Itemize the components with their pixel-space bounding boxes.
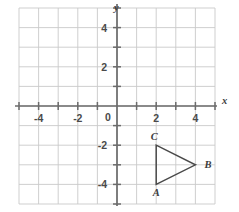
- coordinate-plane-svg: -4-22442-2-40 ABC x y: [0, 0, 239, 212]
- y-tick-label: -2: [98, 139, 107, 151]
- y-tick-label: -4: [98, 178, 107, 190]
- vertex-label-a: A: [152, 187, 160, 198]
- coordinate-plane-figure: -4-22442-2-40 ABC x y: [0, 0, 239, 212]
- y-axis-label: y: [112, 2, 119, 13]
- y-tick-label: 2: [101, 61, 107, 73]
- x-axis-label: x: [221, 95, 227, 106]
- origin-label: 0: [105, 111, 111, 123]
- x-tick-label: 4: [192, 112, 198, 124]
- vertex-label-b: B: [203, 159, 211, 170]
- x-tick-label: -4: [34, 112, 43, 124]
- x-tick-label: 2: [153, 112, 159, 124]
- vertex-label-c: C: [151, 131, 159, 142]
- y-tick-label: 4: [101, 22, 107, 34]
- x-tick-label: -2: [73, 112, 82, 124]
